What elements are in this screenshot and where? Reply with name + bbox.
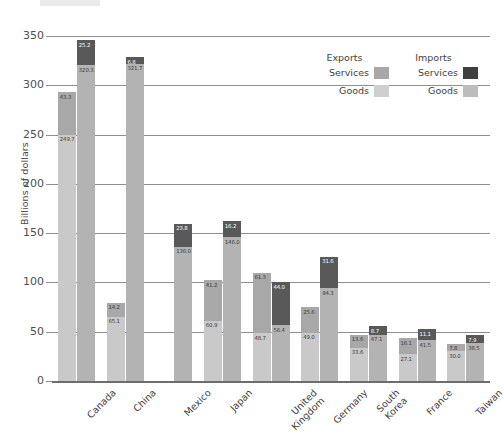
- bar-segment: 16.2: [223, 221, 241, 237]
- bar-group: 13.633.68.747.1: [350, 326, 387, 381]
- legend-label-exports-services: Services: [329, 67, 369, 78]
- bar-value-label: 11.1: [420, 331, 431, 337]
- bar-exports: 7.830.0: [447, 344, 465, 381]
- bar-segment: 6.8: [126, 57, 144, 64]
- bar-imports: 25.2320.3: [77, 40, 95, 381]
- bar-value-label: 38.5: [468, 345, 479, 351]
- bar-segment: 11.1: [418, 329, 436, 340]
- bar-segment: 27.1: [399, 354, 417, 381]
- bar-group: 25.649.031.694.3: [301, 257, 338, 381]
- bar-value-label: 94.3: [322, 290, 333, 296]
- bar-value-label: 49.0: [303, 334, 314, 340]
- bar-exports: 43.3249.7: [58, 92, 76, 381]
- bar-group: 43.3249.725.2320.3: [58, 40, 95, 381]
- bar-value-label: 65.1: [109, 318, 120, 324]
- bar-segment: 16.1: [399, 338, 417, 354]
- bar-segment: 94.3: [320, 288, 338, 381]
- bar-value-label: 60.9: [206, 322, 217, 328]
- legend-label-imports-goods: Goods: [428, 85, 458, 96]
- bar-value-label: 16.2: [225, 223, 236, 229]
- legend-swatch-imports-goods: [463, 85, 478, 97]
- bar-segment: 136.0: [174, 247, 192, 381]
- y-tick-label: 250: [0, 128, 44, 141]
- bar-value-label: 47.1: [371, 336, 382, 342]
- bar-segment: 47.1: [369, 335, 387, 381]
- y-tick-label: 100: [0, 275, 44, 288]
- y-tick-label: 150: [0, 226, 44, 239]
- bar-value-label: 321.7: [128, 65, 143, 71]
- legend-row-services: Services Services: [300, 65, 478, 80]
- bar-value-label: 43.3: [60, 94, 71, 100]
- bar-value-label: 8.7: [371, 328, 379, 334]
- x-tick-label: Canada: [85, 387, 118, 420]
- bar-segment: 56.4: [272, 325, 290, 381]
- bar-segment: 49.0: [301, 333, 319, 381]
- bar-value-label: 23.8: [176, 225, 187, 231]
- bar-value-label: 13.6: [352, 336, 363, 342]
- bar-imports: 11.141.5: [418, 329, 436, 381]
- bar-segment: 33.6: [350, 348, 368, 381]
- bar-value-label: 146.0: [225, 239, 240, 245]
- bar-segment: 8.7: [369, 326, 387, 335]
- bar-segment: 14.2: [107, 303, 125, 317]
- bar-segment: 249.7: [58, 135, 76, 381]
- bar-segment: 61.3: [253, 273, 271, 333]
- bar-segment: 7.8: [447, 344, 465, 352]
- legend-swatch-imports-services: [463, 67, 478, 79]
- bar-segment: 31.6: [320, 257, 338, 288]
- bar-imports: 7.938.5: [466, 335, 484, 381]
- bar-group: 61.348.744.056.4: [253, 273, 290, 381]
- bar-group: 23.8136.0: [155, 224, 192, 382]
- x-tick-label: China: [131, 387, 158, 414]
- x-tick-label: UnitedKingdom: [281, 387, 326, 432]
- bar-value-label: 61.3: [255, 274, 266, 280]
- bar-segment: 41.2: [204, 280, 222, 321]
- bar-segment: 25.6: [301, 307, 319, 332]
- bar-group: 7.830.07.938.5: [447, 335, 484, 381]
- bar-imports: 8.747.1: [369, 326, 387, 381]
- page-artifact-top: [40, 0, 100, 6]
- bar-segment: 65.1: [107, 317, 125, 381]
- bar-segment: 44.0: [272, 282, 290, 325]
- bar-group: 14.265.16.8321.7: [107, 57, 144, 381]
- bar-value-label: 14.2: [109, 304, 120, 310]
- bar-value-label: 44.0: [274, 284, 285, 290]
- bar-segment: 38.5: [466, 343, 484, 381]
- bar-value-label: 7.8: [449, 345, 457, 351]
- bar-value-label: 33.6: [352, 349, 363, 355]
- bar-value-label: 249.7: [60, 136, 75, 142]
- legend-row-goods: Goods Goods: [300, 83, 478, 98]
- bar-value-label: 25.6: [303, 309, 314, 315]
- legend-item-exports-services: Services: [300, 67, 389, 79]
- bar-value-label: 31.6: [322, 258, 333, 264]
- bar-segment: 30.0: [447, 351, 465, 381]
- bar-exports: 16.127.1: [399, 338, 417, 381]
- bar-imports: 31.694.3: [320, 257, 338, 381]
- bar-value-label: 320.3: [79, 67, 94, 73]
- bar-group: 16.127.111.141.5: [399, 329, 436, 381]
- bar-exports: 41.260.9: [204, 280, 222, 381]
- legend-header-exports: Exports: [300, 52, 389, 63]
- y-tick-label: 0: [0, 374, 44, 387]
- legend-header-imports: Imports: [389, 52, 478, 63]
- bar-imports: 23.8136.0: [174, 224, 192, 382]
- x-tick-label: Taiwan: [473, 387, 504, 418]
- legend-label-imports-services: Services: [418, 67, 458, 78]
- bar-segment: 60.9: [204, 321, 222, 381]
- y-tick-label: 300: [0, 78, 44, 91]
- bar-value-label: 16.1: [401, 340, 412, 346]
- x-tick-label: Japan: [228, 387, 255, 414]
- bar-value-label: 41.2: [206, 282, 217, 288]
- legend-item-imports-services: Services: [389, 67, 478, 79]
- bar-imports: 16.2146.0: [223, 221, 241, 381]
- bar-value-label: 41.5: [420, 342, 431, 348]
- x-tick-label: SouthKorea: [374, 387, 409, 422]
- bar-segment: 146.0: [223, 237, 241, 381]
- y-tick-label: 50: [0, 325, 44, 338]
- bar-segment: 25.2: [77, 40, 95, 65]
- legend-swatch-exports-services: [374, 67, 389, 79]
- bar-exports: 14.265.1: [107, 303, 125, 381]
- bar-segment: 13.6: [350, 335, 368, 348]
- x-axis-baseline: [52, 381, 490, 383]
- bar-segment: 321.7: [126, 64, 144, 381]
